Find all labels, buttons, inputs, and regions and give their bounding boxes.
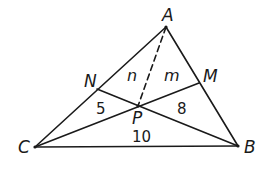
label-p: P [132, 108, 143, 128]
label-c: C [18, 137, 30, 157]
region-label-5: 5 [96, 100, 106, 118]
segment-ab [166, 27, 238, 146]
segment-cm [35, 83, 199, 147]
region-label-10: 10 [132, 128, 151, 146]
region-label-m: m [164, 66, 180, 85]
label-n: N [84, 71, 97, 91]
vertex-b-dot [236, 144, 239, 147]
region-label-n: n [127, 66, 137, 85]
label-b: B [244, 137, 256, 157]
vertex-c-dot [33, 145, 36, 148]
region-label-8: 8 [177, 100, 187, 118]
segment-bc [35, 146, 238, 147]
segment-bn [97, 89, 238, 146]
triangle-diagram: A B C M N P n m 5 8 10 [0, 0, 268, 183]
vertex-a-dot [164, 25, 167, 28]
label-a: A [161, 5, 174, 25]
label-m: M [203, 66, 218, 86]
